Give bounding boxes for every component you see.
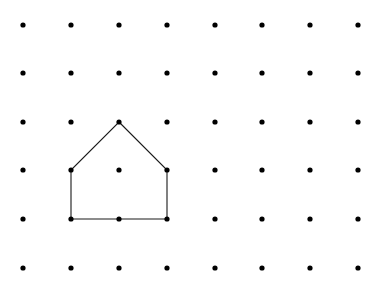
grid-dot (212, 216, 217, 221)
grid-dot (20, 119, 25, 124)
grid-dot (212, 265, 217, 270)
grid-dot (259, 70, 264, 75)
grid-dot (20, 265, 25, 270)
grid-dot (68, 216, 73, 221)
grid-dot (259, 265, 264, 270)
grid-dot (307, 119, 312, 124)
grid-dot (116, 265, 121, 270)
grid-dot (116, 119, 121, 124)
grid-dot (307, 167, 312, 172)
grid-dot (164, 70, 169, 75)
grid-dot (355, 216, 360, 221)
grid-dot (116, 70, 121, 75)
grid-dot (164, 167, 169, 172)
grid-dot (116, 167, 121, 172)
background (0, 0, 384, 290)
grid-dot (259, 119, 264, 124)
grid-dot (20, 22, 25, 27)
grid-dot (20, 216, 25, 221)
grid-dot (164, 22, 169, 27)
grid-dot (20, 167, 25, 172)
grid-dot (68, 167, 73, 172)
grid-dot (355, 167, 360, 172)
grid-dot (116, 216, 121, 221)
grid-dot (212, 70, 217, 75)
grid-dot (212, 22, 217, 27)
grid-dot (307, 70, 312, 75)
grid-dot (307, 265, 312, 270)
grid-dot (164, 265, 169, 270)
grid-dot (259, 22, 264, 27)
grid-dot (164, 119, 169, 124)
grid-dot (307, 216, 312, 221)
grid-dot (212, 119, 217, 124)
grid-dot (355, 70, 360, 75)
grid-dot (68, 22, 73, 27)
grid-dot (68, 119, 73, 124)
grid-dot (355, 119, 360, 124)
grid-dot (116, 22, 121, 27)
dot-grid-diagram (0, 0, 384, 290)
grid-dot (355, 22, 360, 27)
grid-dot (259, 216, 264, 221)
grid-dot (164, 216, 169, 221)
grid-dot (68, 70, 73, 75)
grid-dot (355, 265, 360, 270)
grid-dot (212, 167, 217, 172)
grid-dot (20, 70, 25, 75)
grid-dot (259, 167, 264, 172)
grid-dot (68, 265, 73, 270)
grid-dot (307, 22, 312, 27)
